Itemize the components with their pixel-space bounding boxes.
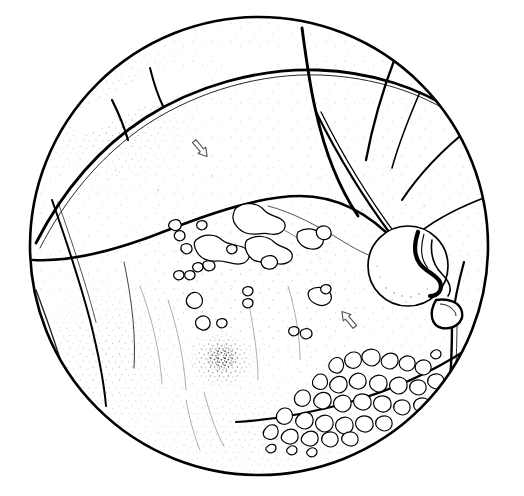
peripapillary-notch-lesion <box>432 300 463 329</box>
fundus-figure: Fundus drawing of retina Stippled pen-an… <box>0 0 524 496</box>
fundus-drawing-canvas <box>0 0 524 496</box>
